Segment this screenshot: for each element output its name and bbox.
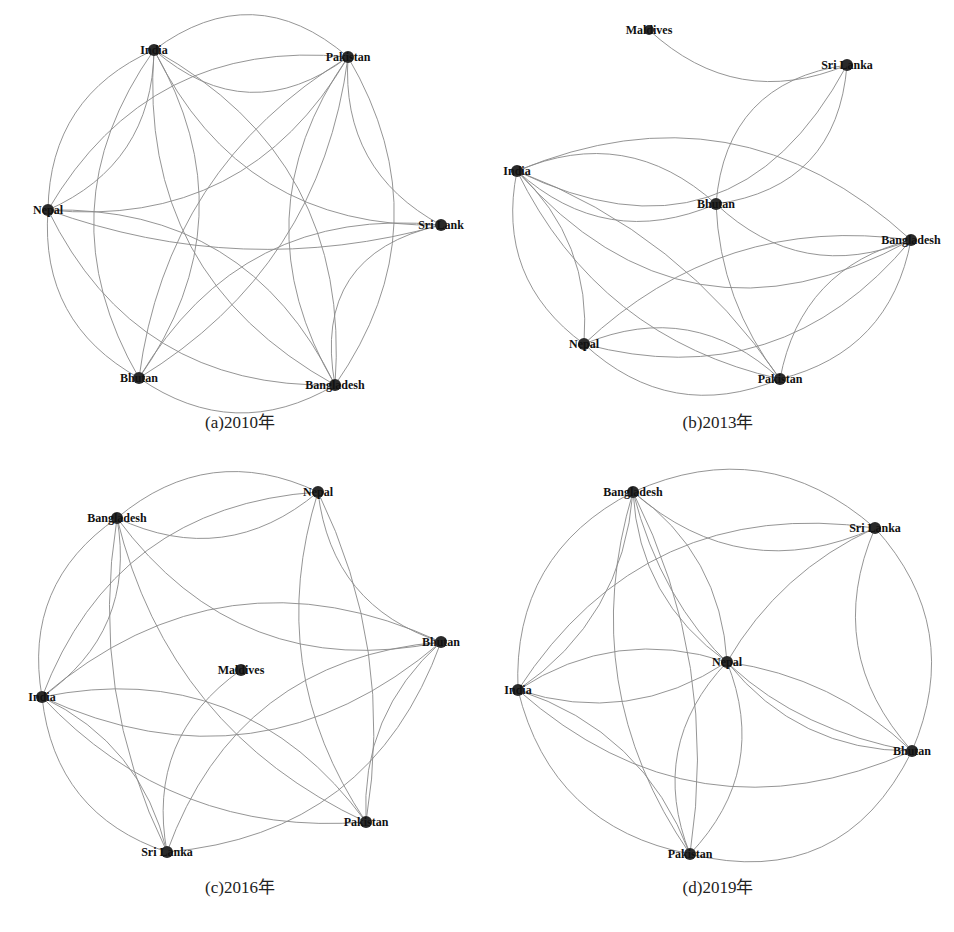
node-label: Bangladesh xyxy=(305,378,365,392)
panel-a-2010-network: IndiaPakistanNepalSri LankBhutanBanglade… xyxy=(33,15,464,432)
node-bhutan: Bhutan xyxy=(120,371,158,385)
edges xyxy=(39,472,441,852)
edge-india-bhutan xyxy=(517,171,716,221)
edge-bangladesh-nepal xyxy=(117,492,318,538)
edge-bhutan-india xyxy=(517,154,716,204)
node-pakistan: Pakistan xyxy=(668,847,713,861)
edge-bangladesh-pakistan xyxy=(613,492,690,854)
edge-pakistan-india xyxy=(154,15,348,57)
node-label: Sri Lank xyxy=(418,218,464,232)
edge-nepal-bhutan xyxy=(318,492,441,642)
panel-d-2019-network: BangladeshSri LankaNepalIndiaBhutanPakis… xyxy=(504,469,931,897)
node-label: Pakistan xyxy=(758,372,803,386)
edge-pakistan-bhutan xyxy=(690,751,912,862)
node-bangladesh: Bangladesh xyxy=(305,378,365,392)
network-figure: IndiaPakistanNepalSri LankBhutanBanglade… xyxy=(0,0,954,932)
node-label: Nepal xyxy=(569,337,600,351)
edge-bhutan-pakistan xyxy=(139,57,348,378)
edge-india-pakistan xyxy=(154,50,348,92)
edge-bangladesh-sri-lanka xyxy=(109,518,167,852)
node-bangladesh: Bangladesh xyxy=(881,233,941,247)
edge-bhutan-sri-lanka xyxy=(875,528,932,751)
edge-sri-lanka-india xyxy=(518,523,875,690)
panel-b-2013-network: MaldivesSri LankaIndiaBhutanBangladeshNe… xyxy=(503,23,941,432)
edge-bangladesh-india xyxy=(517,138,911,240)
edge-pakistan-india xyxy=(518,690,690,854)
panel-caption: (c)2016年 xyxy=(205,878,275,897)
panel-caption: (d)2019年 xyxy=(683,878,754,897)
node-bhutan: Bhutan xyxy=(697,197,735,211)
panel-c-2016-network: NepalBangladeshBhutanMaldivesIndiaPakist… xyxy=(28,472,460,897)
node-label: Sri Lanka xyxy=(849,521,901,535)
edge-maldives-sri-lanka xyxy=(649,30,847,82)
node-label: Bhutan xyxy=(422,635,460,649)
node-label: Bhutan xyxy=(120,371,158,385)
edge-bangladesh-india xyxy=(39,518,117,697)
node-label: Nepal xyxy=(303,485,334,499)
edge-bangladesh-pakistan xyxy=(335,57,394,385)
node-maldives: Maldives xyxy=(626,23,673,37)
node-label: India xyxy=(140,43,167,57)
edge-india-bhutan xyxy=(518,690,912,787)
edge-india-pakistan xyxy=(518,690,690,854)
node-bangladesh: Bangladesh xyxy=(87,511,147,525)
edge-nepal-india xyxy=(518,649,727,690)
node-label: Maldives xyxy=(626,23,673,37)
node-label: Bangladesh xyxy=(603,485,663,499)
node-label: Pakistan xyxy=(668,847,713,861)
edge-nepal-pakistan xyxy=(48,57,348,212)
edge-india-bangladesh xyxy=(517,171,911,288)
node-sri-lanka: Sri Lanka xyxy=(141,845,193,859)
node-label: Sri Lanka xyxy=(141,845,193,859)
edge-pakistan-bangladesh xyxy=(780,240,911,379)
node-label: Nepal xyxy=(712,655,743,669)
node-india: India xyxy=(140,43,167,57)
node-label: India xyxy=(503,164,530,178)
edge-sri-lank-bangladesh xyxy=(331,225,441,385)
edge-india-bangladesh xyxy=(153,50,335,385)
node-bangladesh: Bangladesh xyxy=(603,485,663,499)
node-label: Nepal xyxy=(33,203,64,217)
edge-pakistan-india xyxy=(517,171,780,379)
edge-bangladesh-nepal xyxy=(633,492,727,662)
node-bhutan: Bhutan xyxy=(422,635,460,649)
edge-bhutan-pakistan xyxy=(716,204,780,379)
node-label: India xyxy=(28,690,55,704)
node-label: Bangladesh xyxy=(881,233,941,247)
node-sri-lank: Sri Lank xyxy=(418,218,464,232)
edge-sri-lanka-nepal xyxy=(727,528,875,662)
edge-bangladesh-india xyxy=(154,50,336,385)
node-pakistan: Pakistan xyxy=(758,372,803,386)
edge-india-sri-lanka xyxy=(517,65,847,206)
edge-nepal-bhutan xyxy=(727,662,912,751)
node-maldives: Maldives xyxy=(218,663,265,677)
node-india: India xyxy=(504,683,531,697)
edge-bhutan-bangladesh xyxy=(716,204,911,256)
node-label: Bangladesh xyxy=(87,511,147,525)
node-bhutan: Bhutan xyxy=(893,744,931,758)
edge-sri-lanka-bhutan xyxy=(855,528,912,751)
edge-india-nepal xyxy=(518,662,727,703)
edge-nepal-bangladesh xyxy=(633,492,727,662)
node-label: Sri Lanka xyxy=(821,58,873,72)
edge-india-bhutan xyxy=(94,50,154,378)
edge-maldives-sri-lanka xyxy=(163,670,241,852)
edge-nepal-pakistan xyxy=(675,662,727,854)
node-label: Bhutan xyxy=(893,744,931,758)
node-pakistan: Pakistan xyxy=(344,815,389,829)
node-nepal: Nepal xyxy=(303,485,334,499)
edge-india-pakistan xyxy=(517,171,780,379)
edge-nepal-sri-lank xyxy=(48,210,441,249)
edge-nepal-pakistan xyxy=(299,492,366,822)
edge-bangladesh-pakistan xyxy=(780,240,911,379)
node-label: Bhutan xyxy=(697,197,735,211)
edge-pakistan-nepal xyxy=(318,492,374,822)
node-india: India xyxy=(28,690,55,704)
edge-pakistan-india xyxy=(42,689,366,822)
edges xyxy=(47,15,441,413)
node-pakistan: Pakistan xyxy=(326,50,371,64)
node-nepal: Nepal xyxy=(569,337,600,351)
edge-india-sri-lank xyxy=(154,50,441,225)
edge-bhutan-nepal xyxy=(727,662,912,751)
edge-pakistan-bhutan xyxy=(139,57,348,378)
